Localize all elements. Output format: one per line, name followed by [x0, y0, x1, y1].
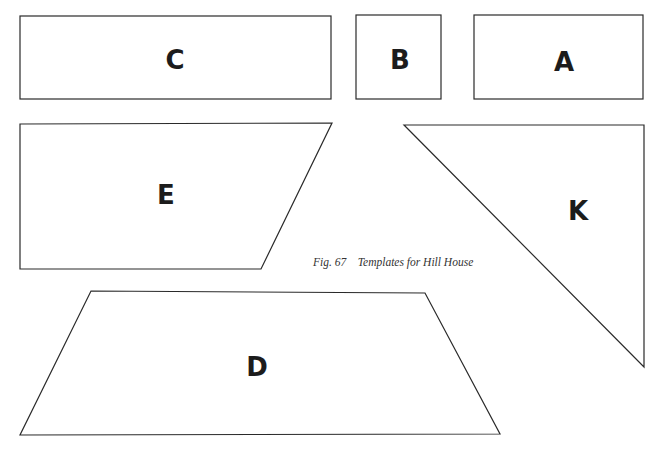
template-b: B: [356, 15, 441, 99]
template-c: C: [20, 16, 331, 99]
templates-diagram: C B A E K D Fig. 67 Templates for Hill H…: [0, 0, 665, 449]
template-d-label: D: [246, 352, 268, 382]
template-e: E: [20, 123, 332, 269]
template-d: D: [20, 291, 500, 435]
template-a-label: A: [554, 47, 574, 77]
template-a: A: [474, 15, 643, 99]
figure-caption: Fig. 67 Templates for Hill House: [312, 256, 473, 269]
template-c-label: C: [165, 45, 184, 75]
template-b-label: B: [390, 45, 410, 75]
template-k-label: K: [568, 196, 589, 226]
template-e-label: E: [157, 180, 175, 210]
template-e-outline: [20, 123, 332, 269]
